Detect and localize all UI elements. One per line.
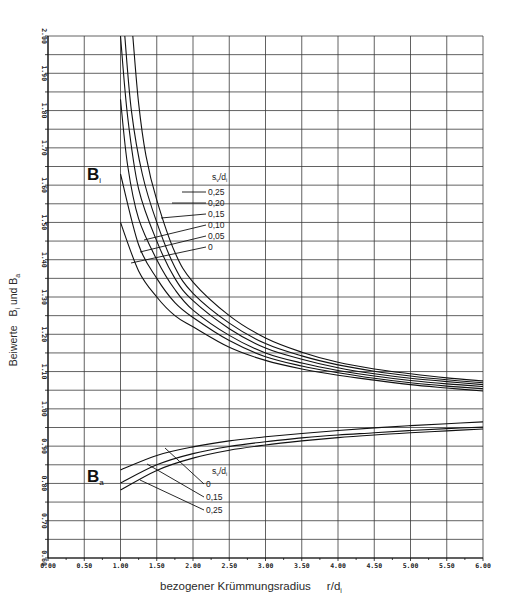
x-tick-label: 2.50 xyxy=(221,562,237,570)
y-tick-label: 1.60 xyxy=(40,177,48,193)
curve-label: 0 xyxy=(208,242,213,252)
x-tick-label: 6.00 xyxy=(475,562,491,570)
chart-plot: 0.000.501.001.502.002.503.003.504.004.50… xyxy=(0,0,514,607)
y-tick-label: 1.30 xyxy=(40,289,48,305)
x-axis-title: bezogener Krümmungsradiusr/di xyxy=(160,580,342,594)
y-axis-title: Beiwerte Bi und Ba xyxy=(4,240,24,400)
curve-label: 0,25 xyxy=(206,505,223,515)
group-label-ba: Ba xyxy=(87,467,104,487)
y-tick-label: 0.80 xyxy=(40,476,48,492)
curve-label: 0 xyxy=(206,479,211,489)
y-tick-label: 1.10 xyxy=(40,364,48,380)
y-tick-label: 1.90 xyxy=(40,65,48,81)
legend-header: sv/di xyxy=(212,466,227,477)
curve-label: 0,15 xyxy=(208,209,225,219)
x-tick-label: 5.50 xyxy=(439,562,455,570)
x-tick-label: 4.50 xyxy=(366,562,382,570)
y-axis-und: und xyxy=(7,285,19,308)
x-tick-label: 2.00 xyxy=(185,562,201,570)
y-tick-label: 1.80 xyxy=(40,103,48,119)
curve-label: 0,10 xyxy=(208,220,225,230)
curve-label: 0,20 xyxy=(208,198,225,208)
grid-lines xyxy=(48,36,483,558)
x-tick-label: 3.00 xyxy=(258,562,274,570)
x-tick-label: 1.50 xyxy=(149,562,165,570)
curve-bi-025 xyxy=(133,36,483,381)
group-label-bi: Bi xyxy=(87,165,101,185)
curve-annotations: sv/disv/di0,250,200,150,100,05000,150,25… xyxy=(87,165,227,515)
y-tick-label: 1.00 xyxy=(40,401,48,417)
y-axis-ba: B xyxy=(7,278,19,285)
curve-bi-020 xyxy=(125,36,483,383)
y-tick-label: 0.60 xyxy=(40,550,48,566)
y-tick-label: 1.40 xyxy=(40,252,48,268)
x-axis-unit-sub: i xyxy=(340,587,342,594)
x-tick-label: 3.50 xyxy=(294,562,310,570)
y-axis-bi: B xyxy=(7,310,19,317)
y-axis-ba-sub: a xyxy=(14,274,21,278)
legend-header: sv/di xyxy=(212,172,227,183)
x-tick-label: 1.00 xyxy=(113,562,129,570)
x-tick-label: 4.00 xyxy=(330,562,346,570)
y-tick-label: 1.20 xyxy=(40,326,48,342)
x-tick-label: 5.00 xyxy=(403,562,419,570)
y-tick-label: 0.90 xyxy=(40,438,48,454)
x-axis-unit-text: r/d xyxy=(327,580,340,592)
x-axis-title-text: bezogener Krümmungsradius xyxy=(160,580,311,592)
y-tick-label: 2.00 xyxy=(40,28,48,44)
y-axis-title-text: Beiwerte xyxy=(7,325,19,366)
y-tick-label: 0.70 xyxy=(40,513,48,529)
x-axis-unit: r/di xyxy=(327,580,342,592)
curve-label: 0,25 xyxy=(208,187,225,197)
curve-label: 0,05 xyxy=(208,231,225,241)
curve-label: 0,15 xyxy=(206,492,223,502)
y-tick-label: 1.70 xyxy=(40,140,48,156)
y-axis-bi-sub: i xyxy=(14,308,21,310)
y-tick-label: 1.50 xyxy=(40,215,48,231)
x-tick-label: 0.50 xyxy=(76,562,92,570)
